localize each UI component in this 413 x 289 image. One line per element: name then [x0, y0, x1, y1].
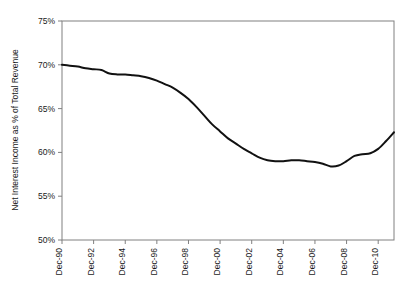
- x-axis-tick-label: Dec-00: [212, 248, 222, 276]
- y-axis-ticks: [58, 21, 62, 240]
- chart-container: 50%55%60%65%70%75% Dec-90Dec-92Dec-94Dec…: [0, 0, 413, 289]
- y-axis-tick-label: 70%: [38, 60, 55, 70]
- y-axis-tick-labels: 50%55%60%65%70%75%: [38, 16, 55, 245]
- x-axis-tick-label: Dec-90: [54, 248, 64, 276]
- x-axis-tick-label: Dec-92: [86, 248, 96, 276]
- x-axis-tick-label: Dec-06: [307, 248, 317, 276]
- data-series-line: [62, 65, 394, 167]
- line-chart: 50%55%60%65%70%75% Dec-90Dec-92Dec-94Dec…: [0, 0, 413, 289]
- plot-area-frame: [62, 21, 394, 240]
- y-axis-tick-label: 55%: [38, 191, 55, 201]
- x-axis-tick-label: Dec-98: [180, 248, 190, 276]
- y-axis-tick-label: 75%: [38, 16, 55, 26]
- x-axis-tick-label: Dec-96: [149, 248, 159, 276]
- x-axis-tick-label: Dec-10: [370, 248, 380, 276]
- x-axis-tick-label: Dec-94: [117, 248, 127, 276]
- y-axis-label: Net Interest Income as % of Total Revenu…: [10, 49, 20, 211]
- x-axis-ticks: [62, 240, 378, 244]
- y-axis-tick-label: 60%: [38, 147, 55, 157]
- x-axis-tick-labels: Dec-90Dec-92Dec-94Dec-96Dec-98Dec-00Dec-…: [54, 248, 380, 276]
- x-axis-tick-label: Dec-04: [275, 248, 285, 276]
- x-axis-tick-label: Dec-02: [244, 248, 254, 276]
- y-axis-tick-label: 50%: [38, 235, 55, 245]
- x-axis-tick-label: Dec-08: [339, 248, 349, 276]
- y-axis-tick-label: 65%: [38, 104, 55, 114]
